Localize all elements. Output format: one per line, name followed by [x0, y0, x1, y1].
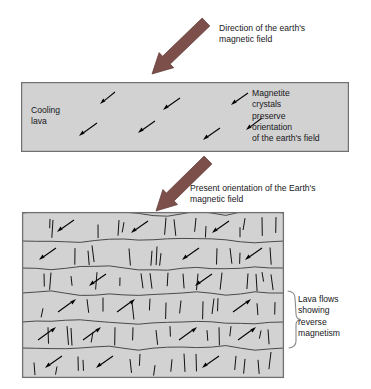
layer-normal-2-crack-4 [129, 249, 130, 266]
layer-normal-3-boundary [22, 266, 284, 270]
crystal-arrow-shaft [143, 121, 155, 130]
layer-normal-3-crack-4 [96, 272, 97, 289]
crystal-arrow-head [202, 363, 208, 368]
crystal-arrow-shaft [217, 221, 229, 230]
cooling-lava-crystal-arrow-1 [100, 92, 115, 104]
layer-normal-2 [22, 238, 284, 265]
crystal-arrow-head [250, 327, 256, 333]
crystal-arrow-head [50, 327, 56, 333]
layer-normal-4-crack-4 [83, 360, 84, 371]
layer-normal-2-crack-11 [270, 248, 271, 265]
layer-normal-1-crack-8 [195, 218, 196, 232]
layer-normal-2-crack-5 [151, 251, 152, 266]
layer-normal-2-normal-arrow-2 [182, 248, 199, 260]
layer-reverse-2-crack-4 [91, 332, 93, 342]
layer-normal-3-crack-2 [50, 273, 51, 290]
layer-reverse-2-crack-9 [207, 330, 208, 341]
crystal-arrow-head [163, 105, 169, 110]
layer-reverse-1-boundary [22, 291, 284, 296]
layer-normal-4-normal-arrow-3 [202, 356, 219, 368]
layer-reverse-1-crack-10 [218, 298, 219, 311]
layer-normal-3-crack-11 [220, 273, 222, 290]
layer-normal-3-normal-arrow-1 [89, 274, 106, 286]
layer-normal-4-crack-14 [269, 352, 271, 369]
crystal-arrow-head [245, 299, 251, 305]
crystal-arrow-head [39, 255, 45, 260]
crystal-arrow-shaft [38, 331, 51, 341]
cooling-lava-crystal-arrow-2 [163, 98, 180, 110]
layer-reverse-2 [22, 320, 284, 346]
crystal-arrow-head [203, 135, 209, 140]
layer-normal-2-crack-8 [217, 248, 218, 264]
layer-normal-1 [22, 210, 284, 238]
crystal-arrow-head [89, 281, 95, 286]
crystal-arrow-shaft [250, 248, 262, 257]
crystal-arrow-head [45, 363, 51, 368]
layer-reverse-1 [22, 291, 284, 320]
layer-normal-3-crack-8 [167, 273, 168, 287]
layer-reverse-1-crack-1 [41, 308, 43, 317]
layer-reverse-1-reverse-arrow-3 [233, 299, 251, 312]
crystal-arrow-head [70, 299, 76, 305]
layer-reverse-1-reverse-arrow-2 [117, 299, 135, 312]
layer-reverse-1-crack-7 [180, 301, 181, 314]
crystal-arrow-head [195, 281, 201, 286]
crystal-arrow-shaft [233, 303, 246, 313]
crystal-arrow-shaft [200, 274, 212, 283]
layer-reverse-1-reverse-arrow-1 [58, 299, 76, 312]
caption-present-orientation-of-earths-magnetic-field: Present orientation of the Earth's magne… [190, 183, 370, 206]
layer-normal-3-crack-3 [71, 276, 72, 286]
crystal-arrow-head [182, 255, 188, 260]
crystal-arrow-shaft [101, 356, 113, 365]
layer-reverse-2-reverse-arrow-4 [238, 327, 256, 340]
layer-reverse-2-crack-1 [48, 327, 49, 343]
layer-reverse-2-crack-13 [268, 330, 269, 345]
layer-normal-3-crack-15 [271, 274, 273, 290]
layer-normal-1-crack-2 [52, 220, 53, 238]
crystal-arrow-shaft [94, 274, 106, 283]
layer-reverse-2-reverse-arrow-3 [179, 327, 197, 340]
layer-normal-3-crack-7 [150, 273, 152, 289]
layer-normal-1-crack-9 [205, 226, 206, 237]
crystal-arrow-shaft [136, 221, 148, 230]
layer-normal-2-normal-arrow-1 [39, 248, 56, 260]
crystal-arrow-head [129, 299, 135, 305]
layer-normal-2-crack-7 [160, 253, 161, 266]
layer-normal-2-crack-9 [230, 248, 232, 264]
lava-flow-block [22, 212, 284, 378]
layer-normal-4 [22, 346, 284, 376]
crystal-arrow-head [246, 125, 252, 131]
layer-normal-2-normal-arrow-3 [245, 248, 262, 260]
layer-normal-3-crack-10 [197, 274, 199, 290]
layer-normal-4-crack-6 [139, 354, 140, 366]
crystal-arrow-shaft [187, 248, 199, 257]
layer-reverse-1-crack-4 [132, 302, 134, 319]
layer-normal-1-normal-arrow-2 [131, 221, 148, 233]
layer-normal-3-crack-9 [183, 274, 184, 289]
layer-reverse-1-crack-2 [87, 299, 89, 313]
crystal-arrow-head [212, 228, 218, 233]
layer-normal-3-normal-arrow-2 [195, 274, 212, 286]
layer-normal-4-normal-arrow-2 [96, 356, 113, 368]
layer-reverse-2-reverse-arrow-2 [83, 327, 101, 340]
crystal-arrow-shaft [117, 303, 130, 313]
layer-normal-2-boundary [22, 238, 284, 242]
layer-normal-3-crack-13 [256, 274, 257, 291]
layer-normal-1-boundary [22, 210, 284, 216]
crystal-arrow-head [245, 255, 251, 260]
layer-normal-4-crack-8 [171, 359, 172, 371]
label-lava-flows-reverse-magnetism: Lava flows showing reverse magnetism [298, 294, 370, 339]
layer-normal-1-crack-4 [118, 220, 119, 236]
cooling-lava-crystal-arrow-5 [138, 121, 155, 133]
crystal-arrow-shaft [58, 303, 71, 313]
layer-reverse-2-reverse-arrow-1 [38, 327, 56, 340]
crystal-arrow-shaft [208, 128, 220, 137]
layer-normal-2-crack-6 [156, 247, 157, 266]
layer-normal-4-boundary [22, 346, 284, 351]
layer-normal-2-crack-3 [92, 245, 94, 262]
crystal-arrow-head [100, 98, 106, 104]
magnetic-reversal-diagram: Direction of the earth's magnetic field … [0, 0, 371, 389]
layer-normal-4-normal-arrow-1 [45, 356, 62, 368]
layer-reverse-2-crack-3 [71, 328, 72, 346]
crystal-arrow-shaft [236, 93, 248, 102]
